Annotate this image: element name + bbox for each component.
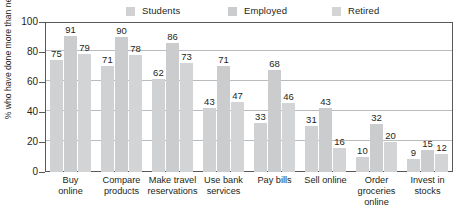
bar-value-label: 91 xyxy=(59,25,82,35)
cropped-title-sliver xyxy=(110,0,350,3)
legend-item-students: Students xyxy=(126,4,180,18)
bar-group: 628673 xyxy=(147,22,198,172)
bar-value-label: 20 xyxy=(379,131,402,141)
chart-legend: StudentsEmployedRetired xyxy=(0,4,461,18)
bar-group: 91512 xyxy=(402,22,453,172)
y-axis-tick-label: 100 xyxy=(8,17,38,27)
legend-item-retired: Retired xyxy=(332,4,379,18)
bar-group: 759179 xyxy=(45,22,96,172)
y-axis-tick-label: 60 xyxy=(8,77,38,87)
bar-group: 103220 xyxy=(351,22,402,172)
bar-value-label: 43 xyxy=(314,97,337,107)
x-axis-labels: BuyonlineCompareproductsMake travelreser… xyxy=(45,175,453,214)
bar xyxy=(217,66,230,173)
bar-value-label: 86 xyxy=(161,32,184,42)
bar xyxy=(231,102,244,173)
y-axis-tick-label: 80 xyxy=(8,47,38,57)
bar xyxy=(166,43,179,172)
x-axis-category-label: Invest instocks xyxy=(396,175,459,197)
bar xyxy=(384,142,397,172)
y-axis-tick-label: 20 xyxy=(8,137,38,147)
bar xyxy=(305,126,318,173)
bar-value-label: 16 xyxy=(328,137,351,147)
bar-value-label: 12 xyxy=(430,143,453,153)
bar xyxy=(282,103,295,172)
bar-value-label: 79 xyxy=(73,43,96,53)
bar xyxy=(180,63,193,173)
y-axis-tick-label: 40 xyxy=(8,107,38,117)
bar xyxy=(254,123,267,173)
legend-swatch-retired xyxy=(332,7,341,16)
bar xyxy=(356,157,369,172)
bar xyxy=(203,108,216,173)
bar-value-label: 90 xyxy=(110,26,133,36)
bar xyxy=(101,66,114,173)
legend-label: Retired xyxy=(348,6,379,16)
legend-swatch-employed xyxy=(228,7,237,16)
bar-group: 719078 xyxy=(96,22,147,172)
x-axis-category-line: stocks xyxy=(396,186,459,197)
bar-value-label: 71 xyxy=(212,55,235,65)
legend-swatch-students xyxy=(126,7,135,16)
bar-value-label: 73 xyxy=(175,52,198,62)
bar xyxy=(115,37,128,172)
bar-value-label: 47 xyxy=(226,91,249,101)
bar-group: 336846 xyxy=(249,22,300,172)
y-axis-tick-label: 0 xyxy=(8,167,38,177)
bar-groups: 7591797190786286734371473368463143161032… xyxy=(45,22,453,172)
bar xyxy=(268,70,281,172)
x-axis-category-line: Invest in xyxy=(396,175,459,186)
bar-value-label: 78 xyxy=(124,44,147,54)
bar-value-label: 68 xyxy=(263,59,286,69)
bar xyxy=(333,148,346,172)
bar xyxy=(407,159,420,173)
bar-value-label: 46 xyxy=(277,92,300,102)
bar-value-label: 32 xyxy=(365,113,388,123)
y-axis-title: % who have done more than never xyxy=(4,0,13,133)
bar xyxy=(64,36,77,173)
bar-group: 314316 xyxy=(300,22,351,172)
bar-group: 437147 xyxy=(198,22,249,172)
bar xyxy=(78,54,91,173)
x-axis-category-line: services xyxy=(192,186,255,197)
bar xyxy=(50,60,63,173)
legend-item-employed: Employed xyxy=(228,4,287,18)
y-axis-tick xyxy=(39,172,45,173)
bar xyxy=(435,154,448,172)
x-axis-category-line: online xyxy=(345,197,408,208)
bar-chart: StudentsEmployedRetired 020406080100 % w… xyxy=(0,0,461,214)
bar xyxy=(152,79,165,172)
legend-label: Students xyxy=(142,6,180,16)
legend-label: Employed xyxy=(244,6,287,16)
bar xyxy=(129,55,142,172)
